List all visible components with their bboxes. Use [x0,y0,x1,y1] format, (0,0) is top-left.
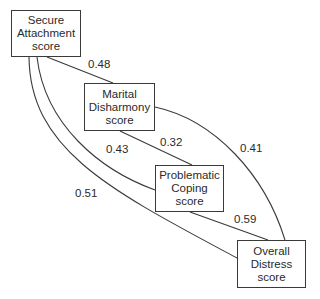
node-label-line: Coping [171,182,207,195]
node-label-line: score [175,195,203,208]
node-label-line: Overall [253,245,289,258]
node-label-line: Disharmony [89,101,150,114]
edge-label-marital-distress: 0.41 [240,142,262,155]
node-marital-disharmony: Marital Disharmony score [84,83,155,131]
node-label-line: score [257,271,285,284]
node-label-line: score [105,114,133,127]
node-overall-distress: Overall Distress score [237,240,306,288]
node-label-line: Secure [28,14,64,27]
edge-label-secure-marital: 0.48 [88,58,110,71]
node-label-line: score [32,40,60,53]
edge-label-secure-coping: 0.43 [106,143,128,156]
node-label-line: Marital [102,88,137,101]
node-problematic-coping: Problematic Coping score [155,165,224,212]
node-secure-attachment: Secure Attachment score [11,10,81,57]
edge-label-marital-coping: 0.32 [160,136,182,149]
node-label-line: Problematic [159,169,220,182]
node-label-line: Attachment [17,27,75,40]
node-label-line: Distress [251,258,293,271]
edge-label-coping-distress: 0.59 [234,213,256,226]
edge-label-secure-distress: 0.51 [75,187,97,200]
